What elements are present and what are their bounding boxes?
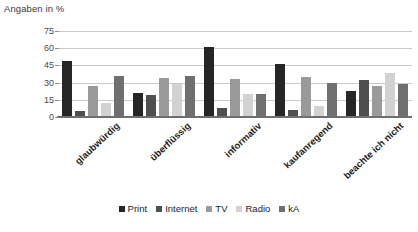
- bar-group: [199, 31, 270, 117]
- y-tick-label: 75: [14, 27, 54, 36]
- legend-item: Internet: [156, 203, 197, 214]
- x-category-label: überflüssig: [147, 120, 192, 163]
- bar-group: [57, 31, 128, 117]
- y-tick-label: 15: [14, 95, 54, 104]
- bar: [172, 84, 182, 117]
- legend-swatch-icon: [206, 206, 212, 212]
- bar: [133, 93, 143, 117]
- y-tick-label: 45: [14, 61, 54, 70]
- bar: [398, 84, 408, 117]
- bar: [230, 79, 240, 117]
- y-tick-mark: [55, 48, 59, 49]
- legend-label: Print: [128, 203, 148, 214]
- bar: [372, 86, 382, 117]
- bar-group: [128, 31, 199, 117]
- legend-item: Radio: [236, 203, 270, 214]
- bar: [146, 95, 156, 117]
- bar-group: [270, 31, 341, 117]
- bar: [243, 94, 253, 117]
- bar-group: [341, 31, 412, 117]
- chart-legend: PrintInternetTVRadiokA: [0, 203, 418, 214]
- y-tick-label: 30: [14, 78, 54, 87]
- y-tick-mark: [55, 65, 59, 66]
- legend-swatch-icon: [279, 206, 285, 212]
- x-category-label: beachte ich nicht: [341, 120, 405, 181]
- legend-swatch-icon: [119, 206, 125, 212]
- y-tick-mark: [55, 31, 59, 32]
- x-axis-category-labels: glaubwürdigüberflüssiginformativkaufanre…: [57, 118, 412, 188]
- bar: [359, 80, 369, 117]
- bar: [101, 103, 111, 117]
- bar: [159, 78, 169, 117]
- plot-area: [57, 31, 412, 117]
- bar: [346, 91, 356, 117]
- legend-label: TV: [215, 203, 227, 214]
- y-axis-title: Angaben in %: [4, 3, 64, 14]
- bar: [275, 64, 285, 117]
- legend-label: kA: [288, 203, 299, 214]
- x-category-label: kaufanregend: [281, 120, 334, 171]
- bar: [114, 76, 124, 117]
- bar: [185, 76, 195, 117]
- y-tick-label: 60: [14, 44, 54, 53]
- x-category-label: glaubwürdig: [72, 120, 121, 167]
- bar: [327, 83, 337, 117]
- bar: [204, 47, 214, 117]
- bar: [385, 73, 395, 117]
- legend-item: Print: [119, 203, 148, 214]
- bar-groups: [57, 31, 412, 117]
- legend-label: Radio: [245, 203, 270, 214]
- legend-item: TV: [206, 203, 227, 214]
- bar: [62, 61, 72, 117]
- legend-item: kA: [279, 203, 299, 214]
- legend-label: Internet: [165, 203, 197, 214]
- y-tick-mark: [55, 100, 59, 101]
- legend-swatch-icon: [156, 206, 162, 212]
- bar: [301, 77, 311, 117]
- y-tick-label: 0: [14, 113, 54, 122]
- y-tick-mark: [55, 83, 59, 84]
- x-category-label: informativ: [222, 120, 263, 159]
- bar: [88, 86, 98, 117]
- bar-chart: Angaben in % 01530456075 glaubwürdigüber…: [0, 0, 418, 232]
- bar: [256, 94, 266, 117]
- legend-swatch-icon: [236, 206, 242, 212]
